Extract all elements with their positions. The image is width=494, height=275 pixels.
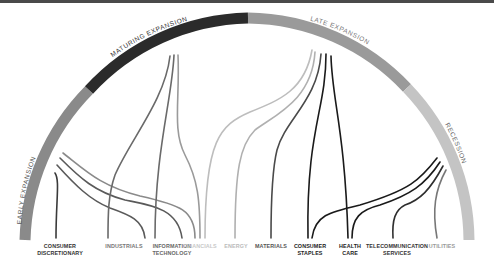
sector-telecommunication-services: TELECOMMUNICATION SERVICES	[366, 243, 428, 257]
line-early-to-financials	[63, 153, 195, 238]
sector-label-line2: CARE	[339, 250, 361, 257]
line-recession-to-health-care	[352, 162, 440, 238]
sector-label-line1: ENERGY	[224, 243, 247, 250]
sector-label-line1: UTILITIES	[429, 243, 455, 250]
sector-materials: MATERIALS	[255, 243, 287, 250]
sector-consumer-discretionary: CONSUMER DISCRETIONARY	[37, 243, 83, 257]
line-consumer-discretionary	[55, 173, 58, 238]
line-early-to-infotech	[60, 158, 182, 238]
sector-label-line2: SERVICES	[366, 250, 428, 257]
line-late-to-energy	[235, 52, 315, 238]
sector-energy: ENERGY	[224, 243, 247, 250]
sector-label-line1: MATERIALS	[255, 243, 287, 250]
sector-financials: FINANCIALS	[183, 243, 217, 250]
arc-late-expansion	[248, 18, 407, 88]
sector-label-line1: TELECOMMUNICATION	[366, 243, 428, 250]
line-late-to-consumer-staples	[308, 54, 326, 238]
sector-consumer-staples: CONSUMER STAPLES	[294, 243, 326, 257]
sector-label-line1: CONSUMER	[37, 243, 83, 250]
business-cycle-diagram: EARLY EXPANSION MATURING EXPANSION LATE …	[0, 0, 494, 275]
sector-industrials: INDUSTRIALS	[105, 243, 142, 250]
sector-label-line1: FINANCIALS	[183, 243, 217, 250]
sector-label-line2: STAPLES	[294, 250, 326, 257]
sector-label-line2: DISCRETIONARY	[37, 250, 83, 257]
sector-label-line1: INDUSTRIALS	[105, 243, 142, 250]
line-maturing-to-financials	[177, 55, 200, 238]
sector-label-line2: TECHNOLOGY	[152, 250, 191, 257]
line-recession-to-utilities	[435, 170, 446, 238]
line-late-to-financials	[205, 50, 312, 238]
sector-label-line1: CONSUMER	[294, 243, 326, 250]
sector-utilities: UTILITIES	[429, 243, 455, 250]
sector-label-line1: HEALTH	[339, 243, 361, 250]
sector-health-care: HEALTH CARE	[339, 243, 361, 257]
